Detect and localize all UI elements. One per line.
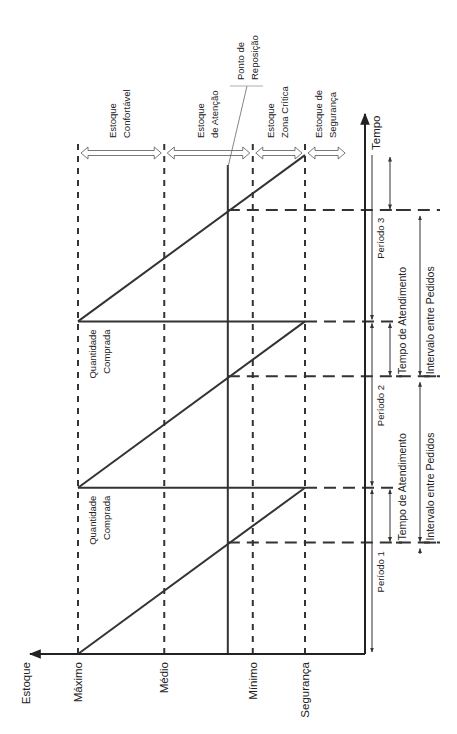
time-axis-label: Tempo	[370, 115, 382, 150]
lead-time-label: Tempo de Atendimento	[396, 267, 408, 375]
zone-label-line2: Zona Crítica	[279, 86, 290, 138]
sawtooth-group	[78, 86, 305, 654]
time-annotations-group	[228, 155, 440, 652]
purchase-label-line1: Quantidade	[87, 329, 98, 378]
level-label-minimo: Mínimo	[247, 662, 259, 700]
zone-label-line2: Segurança	[327, 91, 338, 138]
consumption-line-3	[78, 155, 305, 321]
reorder-label-line2: Reposição	[249, 35, 260, 80]
period-label-2: Período 2	[375, 385, 386, 426]
level-label-seguranca: Segurança	[299, 661, 311, 717]
period-label-1: Período 1	[375, 551, 386, 592]
zone-label-line1: Estoque	[265, 103, 276, 138]
level-lines-group	[78, 140, 305, 654]
level-label-maximo: Máximo	[72, 662, 84, 702]
consumption-line-1	[78, 488, 305, 654]
consumption-line-2	[78, 321, 305, 487]
zone-label-line1: Estoque de	[313, 90, 324, 138]
zone-arrow-2	[256, 147, 302, 159]
zone-arrow-3	[308, 147, 345, 159]
purchase-label-line2: Comprada	[101, 329, 112, 374]
inventory-sawtooth-diagram: MáximoMédioMínimoSegurançaEstoqueConfort…	[0, 0, 457, 734]
zone-arrow-0	[81, 147, 161, 159]
purchase-label-line2: Comprada	[101, 495, 112, 540]
zone-arrow-1	[167, 147, 250, 159]
zone-label-line1: Estoque	[107, 103, 118, 138]
zone-label-line2: Confortável	[121, 89, 132, 138]
interval-label: Intervalo entre Pedidos	[424, 266, 436, 374]
zone-label-line1: Estoque	[195, 103, 206, 138]
axes-group	[30, 114, 365, 654]
stock-axis-label: Estoque	[20, 662, 32, 704]
level-label-medio: Médio	[158, 662, 170, 693]
reorder-label-line1: Ponto de	[235, 42, 246, 80]
period-label-3: Período 3	[375, 218, 386, 259]
zone-label-line2: de Atenção	[209, 90, 220, 138]
interval-label: Intervalo entre Pedidos	[424, 433, 436, 541]
purchase-label-line1: Quantidade	[87, 496, 98, 545]
lead-time-label: Tempo de Atendimento	[396, 433, 408, 541]
